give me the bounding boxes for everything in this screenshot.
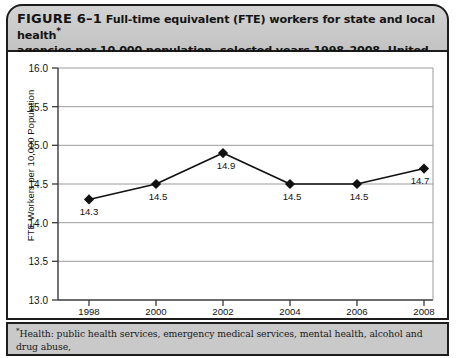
y-tick-label: 13.0 xyxy=(29,295,49,306)
y-tick-label: 16.0 xyxy=(29,63,49,74)
figure-footnote-bar: *Health: public health services, emergen… xyxy=(6,322,449,356)
footnote-line2: outpatient clinics, visiting nurses, foo… xyxy=(16,354,414,356)
x-tick-label: 2002 xyxy=(212,306,233,316)
figure-caption-bar: FIGURE 6–1 Full-time equivalent (FTE) wo… xyxy=(6,4,449,52)
data-point-label: 14.9 xyxy=(217,160,236,171)
x-tick-label: 2006 xyxy=(346,306,367,316)
y-tick-label: 14.0 xyxy=(29,218,49,229)
chart-panel: FTE Workers per 10,000 Population xyxy=(6,52,449,320)
y-axis-ticks xyxy=(52,68,58,300)
data-point-label: 14.7 xyxy=(411,175,430,186)
y-tick-label: 15.0 xyxy=(29,140,49,151)
y-tick-label: 15.5 xyxy=(29,102,49,113)
data-point-label: 14.5 xyxy=(350,191,369,202)
x-tick-label: 2008 xyxy=(413,306,434,316)
x-axis-ticks xyxy=(89,300,424,306)
x-tick-label: 2004 xyxy=(279,306,301,316)
y-tick-label: 13.5 xyxy=(29,256,49,267)
y-tick-label: 14.5 xyxy=(29,179,49,190)
data-point-label: 14.5 xyxy=(149,191,168,202)
data-point-label: 14.5 xyxy=(283,191,302,202)
x-axis-tick-labels: 1998 2000 2002 2004 2006 2008 xyxy=(78,306,434,316)
figure-footnote-text: *Health: public health services, emergen… xyxy=(16,327,439,356)
figure-container: FIGURE 6–1 Full-time equivalent (FTE) wo… xyxy=(0,0,457,358)
data-point-label: 14.3 xyxy=(80,206,99,217)
y-axis-tick-labels: 16.0 15.5 15.0 14.5 14.0 13.5 13.0 xyxy=(29,63,49,306)
x-tick-label: 2000 xyxy=(145,306,166,316)
line-chart-svg: 16.0 15.5 15.0 14.5 14.0 13.5 13.0 1998 xyxy=(8,52,447,316)
figure-number-label: FIGURE 6–1 xyxy=(17,11,102,26)
footnote-line1: Health: public health services, emergenc… xyxy=(16,328,423,352)
figure-title-superscript: * xyxy=(56,26,61,36)
x-tick-label: 1998 xyxy=(78,306,99,316)
